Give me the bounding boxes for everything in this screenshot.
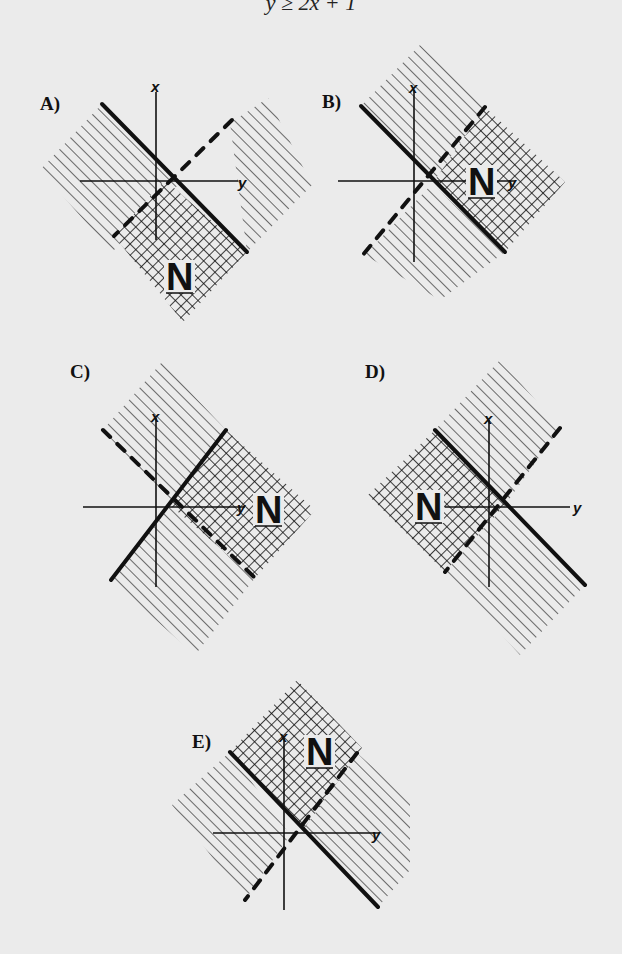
n-region-label: N: [468, 161, 495, 203]
x-axis-label: x: [278, 728, 288, 745]
n-region-label: N: [255, 489, 282, 531]
answer-choice-label-e: E): [192, 731, 211, 753]
panel-a: xyNA): [40, 78, 312, 322]
y-axis-label: y: [236, 499, 246, 516]
answer-choice-label-d: D): [365, 361, 385, 383]
answer-choices-diagram: xyNA)xyNB)xyNC)xyND)xyNE): [0, 0, 622, 954]
x-axis-label: x: [150, 78, 160, 95]
answer-choice-label-c: C): [70, 361, 90, 383]
x-axis-label: x: [150, 408, 160, 425]
y-axis-label: y: [371, 826, 381, 843]
answer-choice-label-a: A): [40, 93, 60, 115]
n-region-label: N: [415, 486, 442, 528]
panel-d: xyND): [365, 360, 585, 655]
y-axis-label: y: [572, 499, 582, 516]
panel-e: xyNE): [172, 680, 410, 910]
n-region-label: N: [166, 256, 193, 298]
x-axis-label: x: [483, 410, 493, 427]
x-axis-label: x: [408, 79, 418, 96]
answer-choice-label-b: B): [322, 91, 341, 113]
y-axis-label: y: [507, 174, 517, 191]
panel-c: xyNC): [70, 361, 315, 655]
y-axis-label: y: [237, 174, 247, 191]
panel-b: xyNB): [322, 45, 565, 300]
n-region-label: N: [306, 731, 333, 773]
